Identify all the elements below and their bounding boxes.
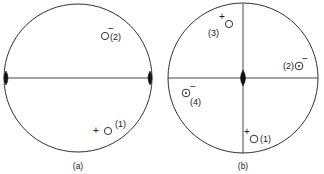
polarity-sign-b1: + bbox=[244, 126, 250, 137]
open-circle-icon-a1 bbox=[104, 127, 111, 134]
caption-a: (a) bbox=[73, 161, 84, 171]
pole-center-b bbox=[241, 70, 246, 86]
marker-label-b2: (2) bbox=[283, 61, 294, 71]
figure-container: −(2)+(1)(a)+(3)−(2)−(4)+(1)(b) bbox=[0, 0, 324, 174]
panel-a: −(2)+(1)(a) bbox=[4, 4, 152, 171]
panel-b: +(3)−(2)−(4)+(1)(b) bbox=[168, 3, 318, 171]
marker-a2[interactable]: −(2) bbox=[101, 23, 121, 42]
marker-b3[interactable]: +(3) bbox=[208, 11, 233, 38]
polarity-sign-b4: − bbox=[190, 81, 196, 92]
marker-label-b3: (3) bbox=[208, 28, 219, 38]
marker-b2[interactable]: −(2) bbox=[283, 53, 308, 71]
marker-label-a2: (2) bbox=[110, 32, 121, 42]
polarity-sign-b3: + bbox=[219, 11, 225, 22]
marker-label-a1: (1) bbox=[115, 119, 126, 129]
marker-label-b1: (1) bbox=[260, 134, 271, 144]
center-dot-icon-b2 bbox=[298, 65, 300, 67]
center-dot-icon-b4 bbox=[185, 92, 187, 94]
open-circle-icon-b1 bbox=[250, 135, 258, 143]
polarity-sign-a1: + bbox=[93, 125, 99, 136]
stereographic-projection-figure: −(2)+(1)(a)+(3)−(2)−(4)+(1)(b) bbox=[0, 0, 324, 174]
caption-b: (b) bbox=[238, 161, 249, 171]
open-circle-icon-b3 bbox=[225, 20, 232, 27]
polarity-sign-b2: − bbox=[302, 53, 308, 64]
marker-b1[interactable]: +(1) bbox=[244, 126, 271, 144]
marker-a1[interactable]: +(1) bbox=[93, 119, 126, 136]
marker-label-b4: (4) bbox=[190, 97, 201, 107]
marker-b4[interactable]: −(4) bbox=[182, 81, 201, 107]
